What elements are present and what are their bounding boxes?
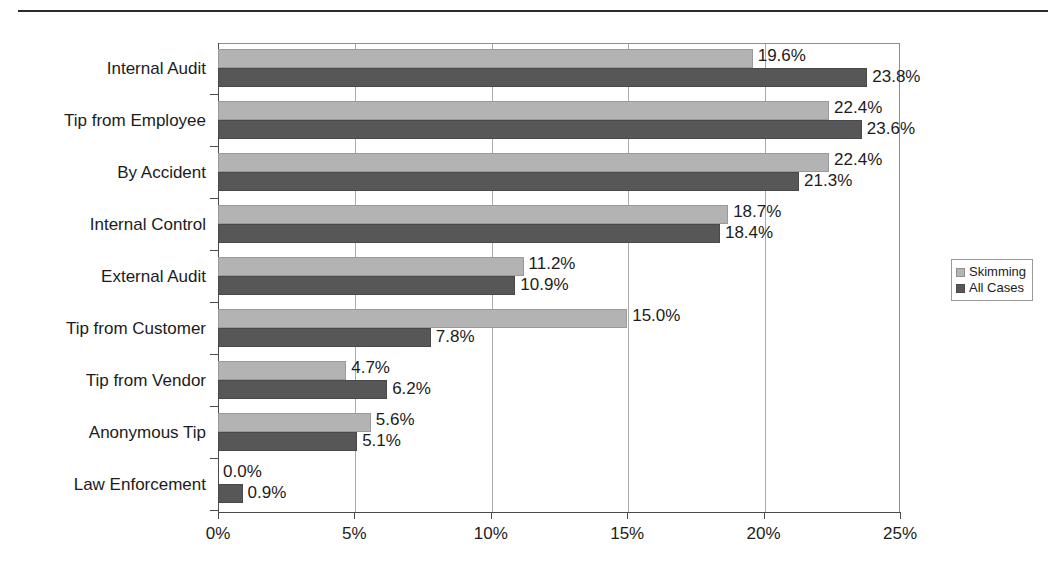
- bar-value-label: 18.7%: [733, 202, 781, 221]
- bar-skimming[interactable]: [218, 413, 371, 432]
- chart-category-row: Internal Audit19.6%23.8%: [0, 43, 1064, 95]
- bar-value-label: 4.7%: [351, 358, 390, 377]
- x-axis-tick-label: 5%: [342, 524, 367, 544]
- chart-category-row: External Audit11.2%10.9%: [0, 251, 1064, 303]
- category-label-internal-control: Internal Control: [0, 199, 206, 251]
- bar-all-cases[interactable]: [218, 224, 720, 243]
- bar-skimming[interactable]: [218, 153, 829, 172]
- bar-value-label: 23.6%: [867, 119, 915, 138]
- y-axis-tick-mark: [210, 510, 219, 511]
- legend-item-skimming[interactable]: Skimming: [956, 264, 1026, 280]
- category-label-anonymous-tip: Anonymous Tip: [0, 407, 206, 459]
- bar-value-label: 15.0%: [632, 306, 680, 325]
- x-axis-tick-mark: [354, 513, 355, 519]
- x-axis-line: [218, 512, 901, 513]
- bar-skimming[interactable]: [218, 49, 753, 68]
- bar-all-cases[interactable]: [218, 120, 862, 139]
- x-axis-tick-label: 0%: [206, 524, 231, 544]
- x-axis-tick-mark: [900, 513, 901, 519]
- bar-all-cases[interactable]: [218, 328, 431, 347]
- bar-value-label: 7.8%: [436, 327, 475, 346]
- chart-category-row: Tip from Customer15.0%7.8%: [0, 303, 1064, 355]
- bar-value-label: 21.3%: [804, 171, 852, 190]
- bar-all-cases[interactable]: [218, 380, 387, 399]
- bar-value-label: 5.6%: [376, 410, 415, 429]
- x-axis-tick-mark: [491, 513, 492, 519]
- legend-label-all-cases: All Cases: [969, 280, 1024, 296]
- bar-skimming[interactable]: [218, 361, 346, 380]
- x-axis-tick-label: 20%: [747, 524, 781, 544]
- bar-value-label: 5.1%: [362, 431, 401, 450]
- category-label-tip-from-employee: Tip from Employee: [0, 95, 206, 147]
- bar-skimming[interactable]: [218, 257, 524, 276]
- category-label-internal-audit: Internal Audit: [0, 43, 206, 95]
- bar-all-cases[interactable]: [218, 172, 799, 191]
- bar-value-label: 0.9%: [248, 483, 287, 502]
- bar-value-label: 23.8%: [872, 67, 920, 86]
- bar-skimming[interactable]: [218, 101, 829, 120]
- x-axis-tick-label: 25%: [883, 524, 917, 544]
- bar-all-cases[interactable]: [218, 432, 357, 451]
- bar-value-label: 11.2%: [529, 254, 576, 273]
- bar-all-cases[interactable]: [218, 68, 867, 87]
- bar-value-label: 18.4%: [725, 223, 773, 242]
- bar-value-label: 0.0%: [223, 462, 262, 481]
- category-label-tip-from-customer: Tip from Customer: [0, 303, 206, 355]
- category-label-tip-from-vendor: Tip from Vendor: [0, 355, 206, 407]
- legend-label-skimming: Skimming: [969, 264, 1026, 280]
- category-label-law-enforcement: Law Enforcement: [0, 459, 206, 511]
- bar-all-cases[interactable]: [218, 276, 515, 295]
- category-label-by-accident: By Accident: [0, 147, 206, 199]
- chart-category-row: By Accident22.4%21.3%: [0, 147, 1064, 199]
- chart-category-row: Tip from Vendor4.7%6.2%: [0, 355, 1064, 407]
- x-axis-tick-label: 10%: [474, 524, 508, 544]
- detection-method-bar-chart: Internal Audit19.6%23.8%Tip from Employe…: [0, 0, 1064, 576]
- bar-value-label: 10.9%: [520, 275, 568, 294]
- legend-item-all-cases[interactable]: All Cases: [956, 280, 1026, 296]
- chart-category-row: Internal Control18.7%18.4%: [0, 199, 1064, 251]
- bar-skimming[interactable]: [218, 309, 627, 328]
- bar-all-cases[interactable]: [218, 484, 243, 503]
- chart-category-row: Law Enforcement0.0%0.9%: [0, 459, 1064, 511]
- chart-legend: Skimming All Cases: [951, 259, 1033, 301]
- bar-value-label: 22.4%: [834, 150, 882, 169]
- chart-category-row: Tip from Employee22.4%23.6%: [0, 95, 1064, 147]
- x-axis-tick-mark: [218, 513, 219, 519]
- x-axis-tick-label: 15%: [610, 524, 644, 544]
- bar-skimming[interactable]: [218, 205, 728, 224]
- legend-swatch-all-cases-icon: [956, 284, 965, 293]
- bar-value-label: 6.2%: [392, 379, 431, 398]
- legend-swatch-skimming-icon: [956, 268, 965, 277]
- x-axis-tick-mark: [764, 513, 765, 519]
- category-label-external-audit: External Audit: [0, 251, 206, 303]
- bar-value-label: 22.4%: [834, 98, 882, 117]
- bar-value-label: 19.6%: [758, 46, 806, 65]
- x-axis-tick-mark: [627, 513, 628, 519]
- chart-category-row: Anonymous Tip5.6%5.1%: [0, 407, 1064, 459]
